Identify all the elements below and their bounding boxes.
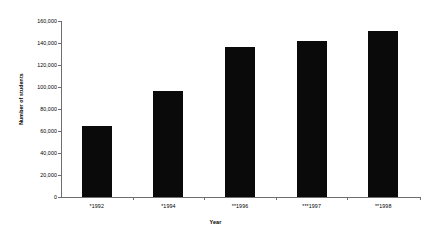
x-axis-line bbox=[61, 197, 420, 198]
bar[interactable] bbox=[153, 91, 183, 197]
x-axis-tick-label: *1992 bbox=[90, 203, 104, 209]
y-axis-tick-label: 60,000 bbox=[40, 128, 57, 134]
y-axis-tick-label: 140,000 bbox=[37, 40, 57, 46]
bar[interactable] bbox=[368, 31, 398, 197]
y-axis-tick-label: 160,000 bbox=[37, 18, 57, 24]
y-axis-tick-label: 100,000 bbox=[37, 84, 57, 90]
bar[interactable] bbox=[82, 126, 112, 197]
bar[interactable] bbox=[297, 41, 327, 197]
x-axis-title: Year bbox=[0, 219, 431, 225]
plot-area: 020,00040,00060,00080,000100,000120,0001… bbox=[61, 21, 419, 197]
x-axis-tick bbox=[133, 197, 134, 200]
y-axis-tick-label: 0 bbox=[54, 194, 57, 200]
bar-slot bbox=[276, 21, 348, 197]
y-axis-title: Number of students bbox=[14, 0, 28, 197]
x-axis-tick bbox=[420, 197, 421, 200]
x-axis-tick-label: **1998 bbox=[375, 203, 392, 209]
y-axis-tick-label: 80,000 bbox=[40, 106, 57, 112]
x-axis-tick-label: ***1997 bbox=[302, 203, 321, 209]
x-axis-tick bbox=[347, 197, 348, 200]
y-axis-tick-label: 20,000 bbox=[40, 172, 57, 178]
y-axis-title-label: Number of students bbox=[18, 73, 24, 125]
y-axis-tick bbox=[58, 197, 61, 198]
bar[interactable] bbox=[225, 47, 255, 197]
x-axis-tick-label: *1994 bbox=[161, 203, 175, 209]
x-axis-tick bbox=[204, 197, 205, 200]
bar-slot bbox=[133, 21, 205, 197]
y-axis-tick-label: 40,000 bbox=[40, 150, 57, 156]
bar-slot bbox=[204, 21, 276, 197]
bar-slot bbox=[61, 21, 133, 197]
x-axis-tick bbox=[276, 197, 277, 200]
bar-slot bbox=[347, 21, 419, 197]
bar-chart-figure: Number of students 020,00040,00060,00080… bbox=[0, 0, 431, 237]
y-axis-tick-label: 120,000 bbox=[37, 62, 57, 68]
x-axis-tick-label: **1996 bbox=[232, 203, 249, 209]
